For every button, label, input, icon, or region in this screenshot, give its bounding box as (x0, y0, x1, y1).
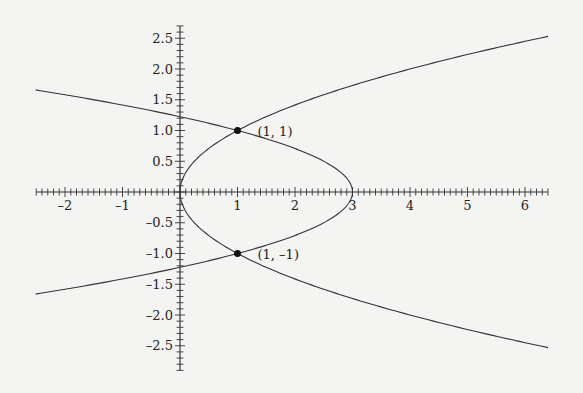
axes: –2–11234562.52.01.51.00.5–0.5–1.0–1.5–2.… (36, 26, 548, 370)
x-tick-label: 3 (348, 198, 356, 213)
plot-area: –2–11234562.52.01.51.00.5–0.5–1.0–1.5–2.… (0, 0, 583, 393)
x-tick-label: 6 (521, 198, 529, 213)
y-tick-label: –2.5 (146, 338, 173, 353)
x-tick-label: 2 (291, 198, 299, 213)
x-tick-label: –2 (58, 198, 73, 213)
y-tick-label: 2.0 (152, 62, 173, 77)
y-tick-label: –1.0 (146, 246, 173, 261)
point-label: (1, 1) (258, 124, 293, 139)
point-label: (1, –1) (258, 247, 299, 262)
x-tick-label: –1 (115, 198, 130, 213)
x-tick-label: 1 (233, 198, 241, 213)
intersection-point (234, 250, 241, 257)
x-tick-label: 5 (463, 198, 471, 213)
x-tick-label: 4 (406, 198, 414, 213)
intersection-point (234, 127, 241, 134)
y-tick-label: 2.5 (152, 31, 173, 46)
y-tick-label: 1.0 (152, 123, 173, 138)
y-tick-label: 1.5 (152, 92, 173, 107)
y-tick-label: 0.5 (152, 154, 173, 169)
y-tick-label: –0.5 (146, 215, 173, 230)
y-tick-label: –1.5 (146, 277, 173, 292)
y-tick-label: –2.0 (146, 308, 173, 323)
